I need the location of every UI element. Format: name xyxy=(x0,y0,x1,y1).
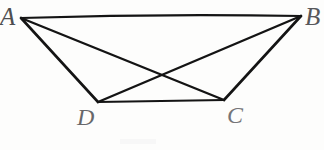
vertex-label-d: D xyxy=(77,105,94,129)
edge-ab xyxy=(21,15,301,18)
edge-dc xyxy=(98,100,224,102)
vertex-label-a: A xyxy=(0,4,15,29)
vertex-label-b: B xyxy=(305,4,320,29)
edge-cb xyxy=(224,16,301,100)
diagonal-ac xyxy=(21,18,224,100)
geometry-figure: A B C D xyxy=(0,0,324,150)
geometry-canvas xyxy=(0,0,324,150)
vertex-label-c: C xyxy=(227,103,243,127)
edge-ad xyxy=(21,18,98,102)
